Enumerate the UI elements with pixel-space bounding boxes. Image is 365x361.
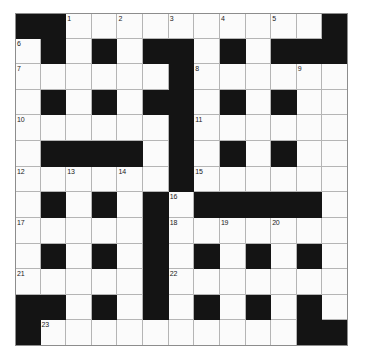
crossword-cell[interactable] — [322, 192, 348, 218]
crossword-cell[interactable]: 6 — [15, 39, 41, 65]
crossword-cell[interactable] — [194, 320, 220, 346]
crossword-cell[interactable] — [220, 115, 246, 141]
crossword-cell[interactable]: 5 — [271, 13, 297, 39]
crossword-cell[interactable] — [220, 167, 246, 193]
crossword-cell[interactable] — [246, 64, 272, 90]
crossword-cell[interactable]: 14 — [117, 167, 143, 193]
crossword-cell[interactable]: 16 — [169, 192, 195, 218]
crossword-cell[interactable]: 10 — [15, 115, 41, 141]
crossword-cell[interactable] — [246, 141, 272, 167]
crossword-cell[interactable] — [92, 167, 118, 193]
crossword-cell[interactable] — [169, 320, 195, 346]
crossword-cell[interactable] — [66, 39, 92, 65]
crossword-cell[interactable] — [271, 167, 297, 193]
crossword-cell[interactable] — [322, 141, 348, 167]
crossword-cell[interactable] — [246, 13, 272, 39]
crossword-cell[interactable] — [66, 218, 92, 244]
crossword-cell[interactable] — [322, 64, 348, 90]
crossword-cell[interactable] — [271, 320, 297, 346]
crossword-cell[interactable] — [15, 192, 41, 218]
crossword-cell[interactable] — [15, 244, 41, 270]
crossword-cell[interactable] — [41, 167, 67, 193]
crossword-cell[interactable] — [322, 218, 348, 244]
crossword-cell[interactable]: 18 — [169, 218, 195, 244]
crossword-cell[interactable] — [143, 13, 169, 39]
crossword-cell[interactable] — [194, 90, 220, 116]
crossword-cell[interactable] — [41, 269, 67, 295]
crossword-cell[interactable] — [92, 218, 118, 244]
crossword-cell[interactable]: 2 — [117, 13, 143, 39]
crossword-cell[interactable] — [117, 90, 143, 116]
crossword-cell[interactable] — [246, 115, 272, 141]
crossword-cell[interactable]: 21 — [15, 269, 41, 295]
crossword-cell[interactable] — [66, 244, 92, 270]
crossword-cell[interactable] — [92, 115, 118, 141]
crossword-cell[interactable] — [66, 64, 92, 90]
crossword-cell[interactable]: 8 — [194, 64, 220, 90]
crossword-cell[interactable] — [117, 218, 143, 244]
crossword-cell[interactable] — [66, 269, 92, 295]
crossword-cell[interactable] — [117, 269, 143, 295]
crossword-cell[interactable] — [194, 218, 220, 244]
crossword-cell[interactable] — [169, 244, 195, 270]
crossword-cell[interactable] — [66, 320, 92, 346]
crossword-cell[interactable]: 15 — [194, 167, 220, 193]
crossword-cell[interactable]: 13 — [66, 167, 92, 193]
crossword-cell[interactable] — [117, 244, 143, 270]
crossword-cell[interactable]: 9 — [297, 64, 323, 90]
crossword-cell[interactable] — [169, 295, 195, 321]
crossword-cell[interactable] — [246, 39, 272, 65]
crossword-cell[interactable] — [117, 320, 143, 346]
crossword-cell[interactable] — [220, 64, 246, 90]
crossword-cell[interactable] — [117, 64, 143, 90]
crossword-cell[interactable] — [297, 90, 323, 116]
crossword-cell[interactable] — [41, 115, 67, 141]
crossword-cell[interactable] — [322, 244, 348, 270]
crossword-cell[interactable] — [322, 115, 348, 141]
crossword-cell[interactable] — [92, 320, 118, 346]
crossword-cell[interactable] — [194, 13, 220, 39]
crossword-cell[interactable] — [322, 90, 348, 116]
crossword-cell[interactable] — [220, 295, 246, 321]
crossword-cell[interactable] — [322, 295, 348, 321]
crossword-cell[interactable] — [246, 320, 272, 346]
crossword-cell[interactable] — [297, 167, 323, 193]
crossword-cell[interactable] — [194, 141, 220, 167]
crossword-cell[interactable] — [143, 167, 169, 193]
crossword-cell[interactable] — [117, 115, 143, 141]
crossword-cell[interactable] — [220, 320, 246, 346]
crossword-cell[interactable]: 7 — [15, 64, 41, 90]
crossword-cell[interactable]: 4 — [220, 13, 246, 39]
crossword-cell[interactable]: 20 — [271, 218, 297, 244]
crossword-cell[interactable] — [297, 13, 323, 39]
crossword-cell[interactable] — [41, 64, 67, 90]
crossword-cell[interactable] — [15, 90, 41, 116]
crossword-cell[interactable]: 3 — [169, 13, 195, 39]
crossword-cell[interactable] — [92, 13, 118, 39]
crossword-grid[interactable]: 1234567891011121314151617181920212223 — [15, 13, 348, 346]
crossword-cell[interactable] — [143, 320, 169, 346]
crossword-cell[interactable] — [322, 167, 348, 193]
crossword-cell[interactable] — [297, 269, 323, 295]
crossword-cell[interactable] — [220, 269, 246, 295]
crossword-cell[interactable] — [66, 90, 92, 116]
crossword-cell[interactable] — [143, 64, 169, 90]
crossword-cell[interactable] — [271, 295, 297, 321]
crossword-cell[interactable] — [271, 115, 297, 141]
crossword-cell[interactable] — [297, 141, 323, 167]
crossword-cell[interactable] — [15, 141, 41, 167]
crossword-cell[interactable] — [143, 141, 169, 167]
crossword-cell[interactable] — [117, 39, 143, 65]
crossword-cell[interactable]: 12 — [15, 167, 41, 193]
crossword-cell[interactable] — [322, 269, 348, 295]
crossword-cell[interactable] — [66, 192, 92, 218]
crossword-cell[interactable] — [271, 64, 297, 90]
crossword-cell[interactable]: 19 — [220, 218, 246, 244]
crossword-cell[interactable] — [246, 269, 272, 295]
crossword-cell[interactable] — [297, 218, 323, 244]
crossword-cell[interactable] — [271, 269, 297, 295]
crossword-cell[interactable] — [246, 167, 272, 193]
crossword-cell[interactable]: 11 — [194, 115, 220, 141]
crossword-cell[interactable] — [117, 295, 143, 321]
crossword-cell[interactable]: 23 — [41, 320, 67, 346]
